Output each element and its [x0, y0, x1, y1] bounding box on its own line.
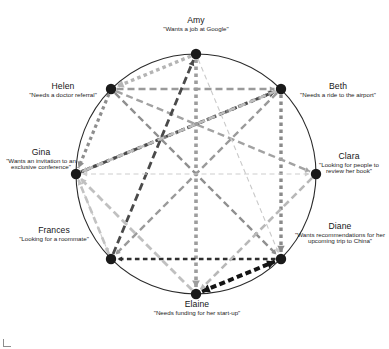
- node-name-beth: Beth: [296, 82, 380, 91]
- node-need-amy: "Wants a job at Google": [146, 26, 246, 33]
- node-label-frances: Frances"Looking for a roommate": [12, 226, 96, 242]
- node-helen[interactable]: [106, 84, 116, 94]
- edge-amy-helen: [117, 56, 191, 87]
- node-need-elaine: "Needs funding for her start-up": [149, 310, 245, 317]
- edge-arrowhead: [192, 280, 200, 287]
- node-label-helen: Helen"Needs a doctor referral": [22, 82, 104, 98]
- edge-elaine-diane: [202, 260, 275, 292]
- node-name-helen: Helen: [22, 82, 104, 91]
- node-name-frances: Frances: [12, 226, 96, 235]
- node-frances[interactable]: [106, 254, 116, 264]
- node-label-elaine: Elaine"Needs funding for her start-up": [149, 300, 245, 316]
- node-beth[interactable]: [276, 84, 286, 94]
- node-need-diane: "Wants recommendations for her upcoming …: [294, 232, 386, 245]
- node-need-beth: "Needs a ride to the airport": [296, 92, 380, 99]
- node-need-gina: "Wants an invitation to an exclusive con…: [6, 158, 76, 171]
- edge-line: [117, 56, 191, 86]
- node-name-clara: Clara: [312, 152, 386, 161]
- corner-crop-mark: [3, 339, 11, 347]
- node-amy[interactable]: [191, 49, 201, 59]
- node-label-clara: Clara"Looking for people to review her b…: [312, 152, 386, 175]
- node-elaine[interactable]: [191, 289, 201, 299]
- node-name-amy: Amy: [146, 16, 246, 25]
- edge-line: [202, 261, 275, 291]
- edge-arrowhead: [305, 167, 310, 172]
- node-need-helen: "Needs a doctor referral": [22, 92, 104, 99]
- edge-line: [78, 94, 108, 168]
- node-label-diane: Diane"Wants recommendations for her upco…: [294, 222, 386, 245]
- node-name-gina: Gina: [6, 148, 76, 157]
- node-need-clara: "Looking for people to review her book": [312, 162, 386, 175]
- node-label-beth: Beth"Needs a ride to the airport": [296, 82, 380, 98]
- edge-arrowhead: [189, 60, 195, 66]
- node-name-diane: Diane: [294, 222, 386, 231]
- edge-arrowhead: [117, 81, 125, 88]
- node-diane[interactable]: [276, 254, 286, 264]
- node-name-elaine: Elaine: [149, 300, 245, 309]
- node-need-frances: "Looking for a roommate": [12, 236, 96, 243]
- node-label-gina: Gina"Wants an invitation to an exclusive…: [6, 148, 76, 171]
- edge-arrowhead: [118, 256, 123, 261]
- node-label-amy: Amy"Wants a job at Google": [146, 16, 246, 32]
- edge-helen-gina-dot: [78, 94, 109, 168]
- network-diagram: Amy"Wants a job at Google"Beth"Needs a r…: [0, 0, 389, 349]
